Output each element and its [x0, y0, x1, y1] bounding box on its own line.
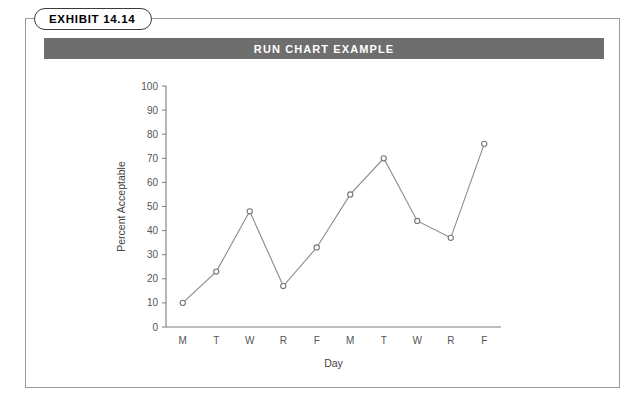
svg-text:10: 10 — [147, 297, 159, 308]
y-axis-ticks: 0102030405060708090100 — [141, 81, 166, 333]
svg-text:T: T — [381, 335, 387, 346]
svg-text:R: R — [280, 335, 287, 346]
svg-text:80: 80 — [147, 129, 159, 140]
svg-text:T: T — [213, 335, 219, 346]
svg-text:W: W — [245, 335, 255, 346]
svg-text:W: W — [413, 335, 423, 346]
svg-text:90: 90 — [147, 105, 159, 116]
exhibit-number-tab: EXHIBIT 14.14 — [34, 8, 152, 30]
exhibit-title: RUN CHART EXAMPLE — [254, 43, 394, 55]
svg-text:100: 100 — [141, 81, 158, 92]
svg-text:50: 50 — [147, 201, 159, 212]
exhibit-title-bar: RUN CHART EXAMPLE — [44, 38, 604, 59]
exhibit-frame: RUN CHART EXAMPLE EXHIBIT 14.14 01020304… — [25, 18, 620, 388]
svg-text:70: 70 — [147, 153, 159, 164]
run-chart-svg: 0102030405060708090100 MTWRFMTWRF Percen… — [26, 19, 621, 389]
y-axis-title: Percent Acceptable — [115, 161, 127, 252]
x-axis-ticks: MTWRFMTWRF — [179, 335, 488, 346]
svg-text:R: R — [447, 335, 454, 346]
svg-text:M: M — [346, 335, 354, 346]
svg-text:M: M — [179, 335, 187, 346]
x-axis-title: Day — [324, 357, 343, 369]
run-chart: 0102030405060708090100 MTWRFMTWRF Percen… — [26, 19, 621, 389]
svg-text:40: 40 — [147, 225, 159, 236]
svg-text:F: F — [481, 335, 487, 346]
data-series-line — [183, 144, 485, 303]
svg-text:30: 30 — [147, 249, 159, 260]
exhibit-number-label: EXHIBIT 14.14 — [49, 13, 135, 25]
svg-text:60: 60 — [147, 177, 159, 188]
svg-text:0: 0 — [152, 322, 158, 333]
svg-text:F: F — [314, 335, 320, 346]
data-series-markers — [180, 141, 487, 305]
svg-text:20: 20 — [147, 273, 159, 284]
